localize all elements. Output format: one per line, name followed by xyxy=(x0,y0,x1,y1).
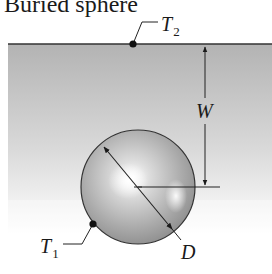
d-label: D xyxy=(181,242,195,262)
t2-subscript: 2 xyxy=(173,24,180,39)
t1-point-marker xyxy=(89,220,96,227)
w-label: W xyxy=(196,101,213,121)
t1-subscript: 1 xyxy=(52,246,59,261)
t2-point-marker xyxy=(129,40,136,47)
figure-title: Buried sphere xyxy=(4,0,138,18)
t2-symbol: T xyxy=(161,13,172,35)
diagram-canvas xyxy=(0,0,272,274)
t2-label: T2 xyxy=(161,14,180,38)
t1-symbol: T xyxy=(40,235,51,257)
t1-label: T1 xyxy=(40,236,59,260)
buried-sphere-diagram: Buried sphere T2 W D T1 xyxy=(0,0,272,274)
